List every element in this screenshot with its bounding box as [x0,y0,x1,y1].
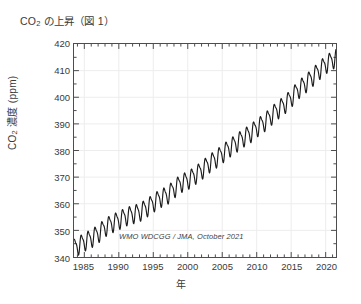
x-axis-tick-labels: 19851990199520002005201020152020 [73,261,337,275]
y-axis-title-rest: 濃度 (ppm) [7,76,18,130]
x-tick-label: 1995 [142,261,163,272]
data-series-line [74,44,336,257]
y-axis-title-subscript: 2 [10,130,19,134]
x-tick-label: 2015 [281,261,302,272]
y-tick-label: 410 [54,64,70,75]
source-annotation: WMO WDCGG / JMA, October 2021 [119,232,244,241]
chart-figure: CO2 の上昇（図 1） WMO WDCGG / JMA, October 20… [0,0,361,304]
y-tick-label: 350 [54,226,70,237]
chart-title: CO2 の上昇（図 1） [20,13,114,28]
x-tick-label: 2005 [212,261,233,272]
y-tick-label: 370 [54,172,70,183]
y-axis-title: CO2 濃度 (ppm) [4,76,19,150]
x-tick-label: 2010 [247,261,268,272]
plot-area [73,43,337,258]
x-axis-title: 年 [0,276,361,291]
x-tick-label: 1985 [73,261,94,272]
x-tick-label: 2020 [316,261,337,272]
y-tick-label: 360 [54,199,70,210]
y-tick-label: 390 [54,118,70,129]
y-tick-label: 380 [54,145,70,156]
y-tick-label: 400 [54,91,70,102]
chart-title-rest: の上昇（図 1） [41,15,114,27]
y-axis-title-main: CO [7,134,18,150]
chart-title-main: CO [20,15,36,27]
x-tick-label: 2000 [177,261,198,272]
y-tick-label: 340 [54,253,70,264]
y-tick-label: 420 [54,38,70,49]
y-axis-tick-labels: 340350360370380390400410420 [40,43,70,258]
x-tick-label: 1990 [108,261,129,272]
